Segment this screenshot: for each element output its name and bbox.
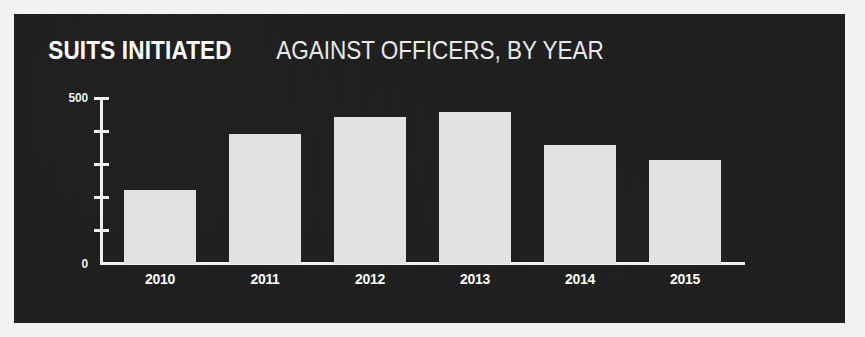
y-axis-label-500: 500 [46,90,88,105]
y-tick-400 [94,130,109,133]
x-axis-label-2015: 2015 [652,270,719,287]
x-axis-label-2014: 2014 [547,270,614,287]
bar-2011 [229,134,301,264]
x-axis-label-2011: 2011 [232,270,299,287]
x-axis-label-2012: 2012 [337,270,404,287]
chart-figure: SUITS INITIATED AGAINST OFFICERS, BY YEA… [0,0,865,337]
x-axis-label-2013: 2013 [442,270,509,287]
y-axis-label-0: 0 [46,256,88,271]
bar-2012 [334,117,406,264]
chart-title-remainder: AGAINST OFFICERS, BY YEAR [276,36,604,65]
y-tick-100 [94,229,109,232]
bar-2013 [439,112,511,264]
bar-2015 [649,160,721,264]
y-axis-line [100,97,103,264]
chart-title-emphasis: SUITS INITIATED [48,36,232,65]
x-axis-label-2010: 2010 [127,270,194,287]
chart-title: SUITS INITIATED AGAINST OFFICERS, BY YEA… [38,36,622,65]
bar-2010 [124,190,196,264]
y-tick-300 [94,163,109,166]
bar-2014 [544,145,616,264]
y-tick-500 [94,97,109,100]
chart-panel: SUITS INITIATED AGAINST OFFICERS, BY YEA… [14,14,845,323]
y-tick-200 [94,196,109,199]
